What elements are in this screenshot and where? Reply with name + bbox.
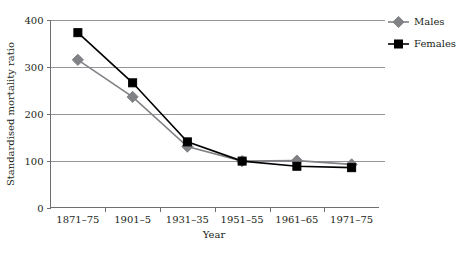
mortality-ratio-line-chart: 1871–751901–51931–351951–551961–651971–7… bbox=[0, 0, 469, 256]
data-point-males-0 bbox=[72, 54, 83, 65]
series-females bbox=[74, 29, 356, 172]
series-line-males bbox=[78, 60, 352, 165]
data-point-females-4 bbox=[293, 162, 301, 170]
y-axis-ticks-group bbox=[47, 21, 51, 209]
legend-label-males: Males bbox=[414, 16, 444, 27]
legend-item-females[interactable]: Females bbox=[388, 38, 456, 49]
x-axis-title: Year bbox=[202, 229, 226, 240]
data-point-females-0 bbox=[74, 29, 82, 37]
y-axis-tick-labels-group: 0100200300400 bbox=[24, 15, 43, 214]
x-tick-label-0: 1871–75 bbox=[56, 214, 99, 225]
chart-legend: MalesFemales bbox=[388, 16, 456, 49]
data-point-females-5 bbox=[348, 164, 356, 172]
x-axis-tick-labels-group: 1871–751901–51931–351951–551961–651971–7… bbox=[56, 214, 373, 225]
y-tick-label-100: 100 bbox=[24, 156, 43, 167]
x-axis-ticks-group bbox=[106, 208, 325, 212]
gridlines-group bbox=[51, 21, 386, 162]
chart-container: 1871–751901–51931–351951–551961–651971–7… bbox=[0, 0, 469, 256]
legend-label-females: Females bbox=[414, 38, 456, 49]
y-tick-label-200: 200 bbox=[24, 109, 43, 120]
y-tick-label-300: 300 bbox=[24, 62, 43, 73]
series-males bbox=[72, 54, 357, 170]
x-tick-label-4: 1961–65 bbox=[275, 214, 318, 225]
legend-marker-diamond-icon bbox=[393, 16, 404, 27]
y-tick-label-400: 400 bbox=[24, 15, 43, 26]
legend-marker-square-icon bbox=[395, 40, 403, 48]
x-tick-label-1: 1901–5 bbox=[114, 214, 151, 225]
x-tick-label-5: 1971–75 bbox=[330, 214, 373, 225]
series-line-females bbox=[78, 33, 352, 168]
series-group bbox=[72, 29, 357, 172]
y-tick-label-0: 0 bbox=[37, 203, 43, 214]
y-axis-title: Standardised mortality ratio bbox=[5, 42, 16, 186]
data-point-females-1 bbox=[129, 79, 137, 87]
data-point-females-2 bbox=[183, 138, 191, 146]
x-tick-label-3: 1951–55 bbox=[221, 214, 264, 225]
legend-item-males[interactable]: Males bbox=[388, 16, 444, 28]
data-point-females-3 bbox=[238, 157, 246, 165]
x-tick-label-2: 1931–35 bbox=[166, 214, 209, 225]
